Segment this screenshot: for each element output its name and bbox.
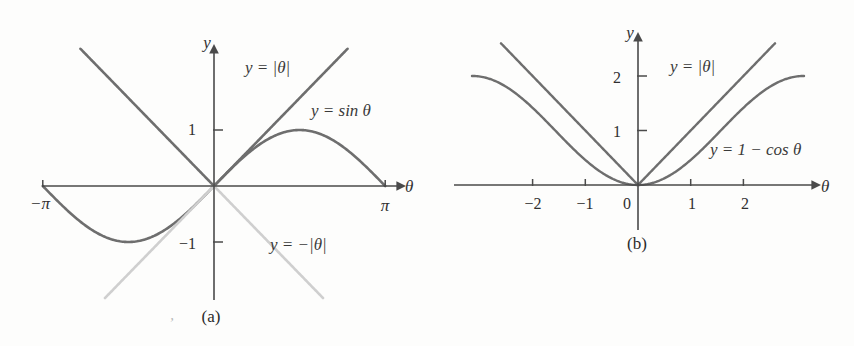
figure-root: y θ −π π 1 −1 y = |θ| y = sin θ y = −|θ|… (0, 0, 854, 346)
axes-group-a (42, 52, 398, 300)
panel-b: y θ −2 −1 0 1 2 1 2 y = |θ| y = 1 − cos … (427, 0, 854, 346)
plot-b (427, 0, 854, 346)
plot-a (0, 0, 427, 346)
axes-group-b (454, 40, 813, 230)
panel-a: y θ −π π 1 −1 y = |θ| y = sin θ y = −|θ|… (0, 0, 427, 346)
